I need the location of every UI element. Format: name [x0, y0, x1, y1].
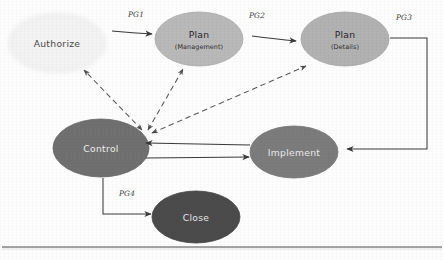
node-plan-details-label: Plan: [335, 29, 356, 40]
edge-label-pg1: PG1: [127, 10, 144, 19]
process-diagram: Authorize Plan (Management) Plan (Detail…: [0, 0, 444, 260]
edge-implement-to-control: [146, 143, 250, 145]
edge-plan-management-to-plan-details: [252, 36, 296, 41]
edge-plan-details-control-feedback: [152, 66, 306, 133]
node-implement[interactable]: Implement: [250, 126, 338, 178]
diagram-canvas: Authorize Plan (Management) Plan (Detail…: [0, 0, 444, 260]
edge-label-pg4: PG4: [118, 189, 135, 198]
node-close-label: Close: [183, 212, 210, 223]
node-plan-details-sublabel: (Details): [331, 43, 359, 51]
node-plan-management-sublabel: (Management): [175, 43, 223, 51]
edge-authorize-to-plan-management: [112, 31, 152, 34]
node-plan-details[interactable]: Plan (Details): [301, 12, 389, 66]
edge-control-to-implement: [146, 157, 249, 158]
node-authorize-label: Authorize: [34, 38, 81, 49]
node-close[interactable]: Close: [152, 191, 240, 243]
edge-plan-management-control-feedback: [148, 69, 183, 130]
node-control[interactable]: Control: [53, 119, 149, 177]
node-plan-management-label: Plan: [189, 29, 210, 40]
edge-label-pg3: PG3: [395, 13, 412, 22]
node-implement-label: Implement: [268, 147, 321, 158]
node-authorize[interactable]: Authorize: [9, 14, 105, 72]
node-plan-management[interactable]: Plan (Management): [155, 12, 243, 66]
node-control-label: Control: [83, 143, 118, 154]
edge-label-pg2: PG2: [248, 11, 265, 20]
